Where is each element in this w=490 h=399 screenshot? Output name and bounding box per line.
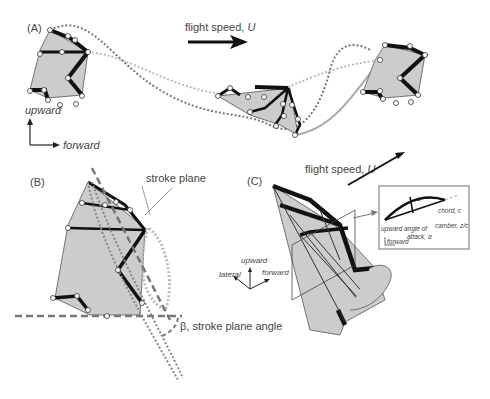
inset-camber-label: camber, z/c — [435, 222, 468, 229]
inset-aoa-label-2: attack, α — [407, 233, 432, 240]
beta-angle-arc — [162, 318, 178, 336]
figure-canvas — [0, 0, 490, 399]
lateral-label-c: lateral — [219, 270, 241, 279]
forward-label-c: forward — [262, 268, 289, 277]
panel-label-a: (A) — [27, 22, 42, 34]
beta-label: β, stroke plane angle — [180, 320, 282, 332]
upward-label-a: upward — [25, 104, 61, 116]
flight-speed-label-a: flight speed, U — [185, 21, 255, 33]
panel-label-b: (B) — [30, 176, 45, 188]
inset-z-label: z — [418, 195, 421, 202]
return-trajectory — [295, 60, 380, 135]
panel-label-c: (C) — [247, 175, 262, 187]
inset-chord-label: chord, c — [438, 207, 461, 214]
inset-upward-label: upward — [381, 225, 402, 232]
inset-forward-label: forward — [387, 238, 409, 245]
stroke-plane-label: stroke plane — [146, 172, 206, 184]
flight-speed-label-c: flight speed, U — [305, 163, 375, 175]
forward-label-a: forward — [63, 139, 100, 151]
inset-aoa-label-1: angle of — [404, 225, 427, 232]
upward-label-c: upward — [241, 256, 267, 265]
